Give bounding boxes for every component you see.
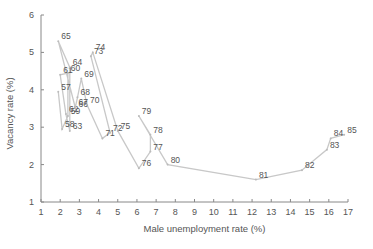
- data-point-label: 81: [259, 170, 269, 180]
- x-tick-label: 3: [77, 207, 82, 217]
- x-tick-label: 11: [228, 207, 237, 217]
- data-point: [80, 78, 82, 80]
- x-tick-label: 8: [173, 207, 178, 217]
- data-point: [69, 66, 71, 68]
- x-tick-label: 14: [285, 207, 295, 217]
- data-point-label: 69: [84, 69, 94, 79]
- data-point-label: 68: [80, 87, 90, 97]
- data-point: [57, 91, 59, 93]
- data-point-label: 77: [153, 142, 163, 152]
- data-point: [330, 137, 332, 139]
- data-point-label: 84: [334, 128, 344, 138]
- data-point: [61, 128, 63, 130]
- x-axis-label: Male unemployment rate (%): [144, 223, 266, 234]
- data-point: [255, 179, 257, 181]
- data-point: [149, 151, 151, 153]
- data-point-label: 64: [73, 57, 83, 67]
- y-axis-label: Vacancy rate (%): [4, 77, 15, 149]
- data-point: [101, 137, 103, 139]
- data-point-label: 74: [96, 42, 106, 52]
- data-point: [167, 164, 169, 166]
- x-tick-label: 10: [209, 207, 219, 217]
- data-point-label: 80: [171, 155, 181, 165]
- y-tick-label: 4: [29, 85, 34, 95]
- x-tick-label: 4: [96, 207, 101, 217]
- x-tick-label: 16: [324, 207, 334, 217]
- data-point: [67, 115, 69, 117]
- x-tick-label: 9: [192, 207, 197, 217]
- data-point: [138, 167, 140, 169]
- chart-svg: 1234567891011121314151617123456Male unem…: [0, 0, 373, 249]
- data-point-label: 85: [347, 125, 357, 135]
- beveridge-curve-chart: 1234567891011121314151617123456Male unem…: [0, 0, 373, 249]
- x-tick-label: 1: [38, 207, 43, 217]
- data-point-label: 57: [61, 82, 71, 92]
- data-line: [58, 41, 344, 179]
- data-point: [149, 134, 151, 136]
- x-tick-label: 12: [247, 207, 257, 217]
- data-point: [343, 134, 345, 136]
- data-point-label: 63: [73, 121, 83, 131]
- data-point: [76, 96, 78, 98]
- data-point-label: 65: [61, 31, 71, 41]
- x-tick-label: 6: [134, 207, 139, 217]
- data-point-label: 79: [142, 106, 152, 116]
- data-point-label: 82: [305, 160, 315, 170]
- x-tick-label: 5: [115, 207, 120, 217]
- data-point-label: 75: [121, 121, 131, 131]
- x-tick-label: 17: [343, 207, 353, 217]
- data-point: [65, 113, 67, 115]
- data-point: [138, 115, 140, 117]
- data-point: [90, 55, 92, 57]
- data-point-label: 61: [63, 65, 73, 75]
- data-point-label: 62: [69, 104, 79, 114]
- data-point-label: 70: [90, 95, 100, 105]
- x-tick-label: 7: [154, 207, 159, 217]
- y-tick-label: 6: [29, 10, 34, 20]
- x-tick-label: 2: [58, 207, 63, 217]
- data-point-label: 78: [153, 125, 163, 135]
- data-point: [326, 149, 328, 151]
- data-point: [301, 169, 303, 171]
- data-point: [75, 106, 77, 108]
- x-tick-label: 13: [266, 207, 276, 217]
- y-tick-label: 3: [29, 122, 34, 132]
- data-point: [75, 108, 77, 110]
- data-point: [109, 132, 111, 134]
- x-tick-label: 15: [305, 207, 315, 217]
- data-point-label: 83: [330, 140, 340, 150]
- data-point: [92, 51, 94, 53]
- data-point: [57, 40, 59, 42]
- data-point: [69, 130, 71, 132]
- y-tick-label: 5: [29, 47, 34, 57]
- y-tick-label: 2: [29, 160, 34, 170]
- y-tick-label: 1: [29, 197, 34, 207]
- data-point: [86, 104, 88, 106]
- data-point: [59, 74, 61, 76]
- data-point: [117, 130, 119, 132]
- data-point-label: 76: [142, 158, 152, 168]
